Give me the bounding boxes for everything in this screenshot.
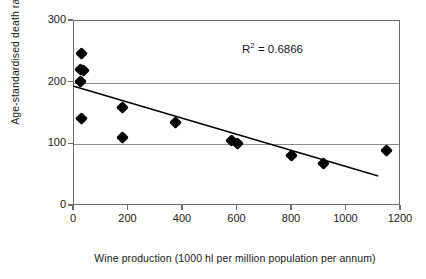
x-tick-label: 0 xyxy=(53,213,93,224)
x-tick-label: 1000 xyxy=(326,213,366,224)
x-tick-mark xyxy=(127,205,128,210)
gridline-200 xyxy=(74,83,399,84)
x-tick-label: 800 xyxy=(271,213,311,224)
y-tick-mark xyxy=(68,143,73,144)
x-tick-label: 400 xyxy=(162,213,202,224)
r-squared-exponent: 2 xyxy=(250,41,254,50)
x-tick-label: 200 xyxy=(108,213,148,224)
x-tick-mark xyxy=(181,205,182,210)
x-tick-mark xyxy=(345,205,346,210)
r-squared-prefix: R xyxy=(242,43,250,55)
x-tick-label: 600 xyxy=(217,213,257,224)
y-tick-label: 200 xyxy=(14,76,66,87)
y-tick-label: 300 xyxy=(14,14,66,25)
r-squared-value: = 0.6866 xyxy=(258,43,303,55)
y-tick-mark xyxy=(68,19,73,20)
x-tick-mark xyxy=(290,205,291,210)
y-axis-title-container: Age-standardised death rate from CHD xyxy=(0,0,30,220)
scatter-chart: Age-standardised death rate from CHD 010… xyxy=(0,0,426,279)
x-tick-mark xyxy=(236,205,237,210)
x-tick-mark xyxy=(72,205,73,210)
r-squared-annotation: R2 = 0.6866 xyxy=(242,41,303,55)
y-tick-label: 100 xyxy=(14,137,66,148)
x-tick-label: 1200 xyxy=(380,213,420,224)
y-tick-mark xyxy=(68,81,73,82)
x-axis-title: Wine production (1000 hl per million pop… xyxy=(60,252,410,264)
y-tick-mark xyxy=(68,204,73,205)
y-tick-label: 0 xyxy=(14,199,66,210)
x-tick-mark xyxy=(399,205,400,210)
